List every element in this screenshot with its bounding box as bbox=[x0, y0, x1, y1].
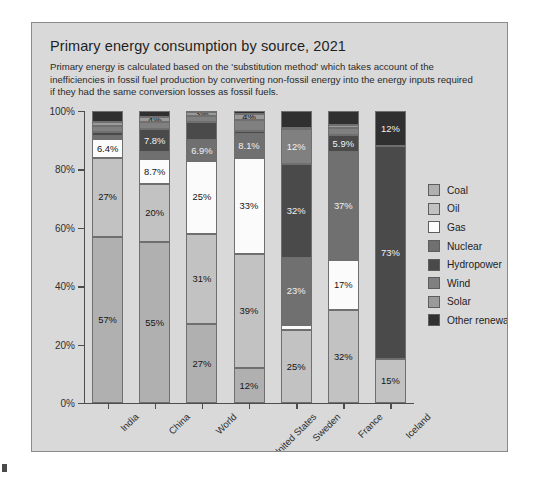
segment-value-label: 57% bbox=[98, 315, 117, 324]
bar-segment[interactable]: 8.7% bbox=[139, 159, 170, 184]
bar-segment[interactable]: 6.4% bbox=[92, 139, 123, 158]
stacked-bar[interactable]: 25%23%32%12% bbox=[281, 111, 312, 403]
bar-segment[interactable]: 25% bbox=[281, 330, 312, 403]
bar-segment[interactable]: 4% bbox=[139, 117, 170, 122]
bar-segment[interactable] bbox=[281, 111, 312, 128]
bar-segment[interactable] bbox=[234, 120, 265, 131]
stacked-bar[interactable]: 32%17%37%5.9% bbox=[328, 111, 359, 403]
segment-value-label: 12% bbox=[240, 381, 259, 390]
bar-segment[interactable] bbox=[139, 111, 170, 117]
y-tick-mark bbox=[78, 228, 84, 229]
bar-segment[interactable] bbox=[328, 125, 359, 128]
bar-segment[interactable]: 73% bbox=[375, 146, 406, 359]
bar-segment[interactable] bbox=[92, 111, 123, 122]
bar-segment[interactable]: 25% bbox=[186, 161, 217, 234]
segment-value-label: 7.8% bbox=[144, 136, 165, 145]
legend-label: Coal bbox=[447, 185, 468, 196]
legend-swatch bbox=[428, 221, 440, 233]
legend-label: Gas bbox=[447, 222, 466, 233]
bar-segment[interactable] bbox=[328, 128, 359, 135]
segment-value-label: 55% bbox=[145, 318, 164, 327]
bar-segment[interactable]: 33% bbox=[234, 158, 265, 254]
bar-segment[interactable] bbox=[92, 136, 123, 139]
legend-label: Nuclear bbox=[447, 241, 482, 252]
bar-segment[interactable] bbox=[92, 132, 123, 136]
bar-segment[interactable] bbox=[186, 122, 217, 140]
segment-value-label: 20% bbox=[145, 208, 164, 217]
bar-segment[interactable]: 5.9% bbox=[328, 135, 359, 152]
bar-segment[interactable]: 12% bbox=[375, 111, 406, 146]
x-tick-mark bbox=[249, 403, 250, 409]
bar-segment[interactable]: 17% bbox=[328, 260, 359, 310]
bar-segment[interactable]: 27% bbox=[186, 324, 217, 403]
bar-segment[interactable] bbox=[186, 111, 217, 113]
bar-segment[interactable]: 57% bbox=[92, 237, 123, 403]
segment-value-label: 12% bbox=[381, 124, 400, 133]
bar-segment[interactable] bbox=[328, 111, 359, 125]
bar-segment[interactable] bbox=[234, 131, 265, 135]
bar-segment[interactable]: 37% bbox=[328, 152, 359, 260]
bar-segment[interactable]: 15% bbox=[375, 359, 406, 403]
x-tick-mark bbox=[202, 403, 203, 409]
legend-label: Other renewables bbox=[447, 315, 508, 326]
legend-label: Oil bbox=[447, 203, 459, 214]
legend-label: Hydropower bbox=[447, 259, 502, 270]
legend-label: Wind bbox=[447, 278, 470, 289]
chart-subtitle: Primary energy is calculated based on th… bbox=[50, 61, 480, 99]
stacked-bar[interactable]: 12%39%33%8.1%4% bbox=[234, 111, 265, 403]
x-tick-mark bbox=[108, 403, 109, 409]
bar-segment[interactable]: 27% bbox=[92, 158, 123, 237]
legend-swatch bbox=[428, 314, 440, 326]
segment-value-label: 37% bbox=[334, 201, 353, 210]
corner-marker bbox=[2, 464, 7, 472]
y-tick-label: 0% bbox=[61, 398, 75, 409]
x-axis-label: India bbox=[118, 411, 140, 433]
legend-item[interactable]: Coal bbox=[428, 181, 508, 200]
bar-segment[interactable] bbox=[281, 128, 312, 130]
stacked-bar[interactable]: 55%20%8.7%7.8%4% bbox=[139, 111, 170, 403]
segment-value-label: 12% bbox=[287, 142, 306, 151]
y-tick-label: 20% bbox=[55, 339, 75, 350]
legend-swatch bbox=[428, 259, 440, 271]
bar-segment[interactable]: 31% bbox=[186, 234, 217, 325]
y-tick-mark bbox=[78, 111, 84, 112]
legend-item[interactable]: Nuclear bbox=[428, 237, 508, 256]
bar-segment[interactable] bbox=[92, 126, 123, 132]
y-axis-line bbox=[84, 111, 85, 403]
bar-segment[interactable] bbox=[186, 116, 217, 122]
stacked-bar[interactable]: 57%27%6.4% bbox=[92, 111, 123, 403]
bar-segment[interactable] bbox=[139, 122, 170, 129]
legend-label: Solar bbox=[447, 296, 471, 307]
legend-item[interactable]: Wind bbox=[428, 274, 508, 293]
bar-segment[interactable] bbox=[281, 325, 312, 330]
segment-value-label: 39% bbox=[240, 306, 259, 315]
legend-swatch bbox=[428, 277, 440, 289]
bar-segment[interactable] bbox=[92, 122, 123, 127]
bar-segment[interactable]: 6.9% bbox=[186, 140, 217, 160]
bar-segment[interactable]: 12% bbox=[281, 129, 312, 164]
bar-segment[interactable]: 32% bbox=[281, 164, 312, 257]
bar-segment[interactable]: 12% bbox=[234, 368, 265, 403]
legend-item[interactable]: Oil bbox=[428, 200, 508, 219]
bar-segment[interactable] bbox=[139, 152, 170, 159]
bar-segment[interactable]: 7.8% bbox=[139, 129, 170, 152]
legend-swatch bbox=[428, 296, 440, 308]
bar-segment[interactable] bbox=[234, 111, 265, 114]
legend-item[interactable]: Hydropower bbox=[428, 255, 508, 274]
legend-item[interactable]: Other renewables bbox=[428, 311, 508, 330]
stacked-bar[interactable]: 27%31%25%6.9%3% bbox=[186, 111, 217, 403]
y-tick-mark bbox=[78, 345, 84, 346]
legend-item[interactable]: Solar bbox=[428, 293, 508, 312]
bar-segment[interactable]: 4% bbox=[234, 114, 265, 120]
stacked-bar[interactable]: 15%73%12% bbox=[375, 111, 406, 403]
bar-segment[interactable]: 23% bbox=[281, 258, 312, 325]
bar-segment[interactable]: 32% bbox=[328, 310, 359, 403]
y-tick-mark bbox=[78, 403, 84, 404]
legend-swatch bbox=[428, 240, 440, 252]
legend-item[interactable]: Gas bbox=[428, 218, 508, 237]
bar-segment[interactable]: 55% bbox=[139, 242, 170, 403]
plot-area: 0%20%40%60%80%100% 57%27%6.4%55%20%8.7%7… bbox=[84, 111, 414, 403]
bar-segment[interactable]: 39% bbox=[234, 254, 265, 368]
bar-segment[interactable]: 8.1% bbox=[234, 134, 265, 158]
bar-segment[interactable]: 20% bbox=[139, 184, 170, 242]
